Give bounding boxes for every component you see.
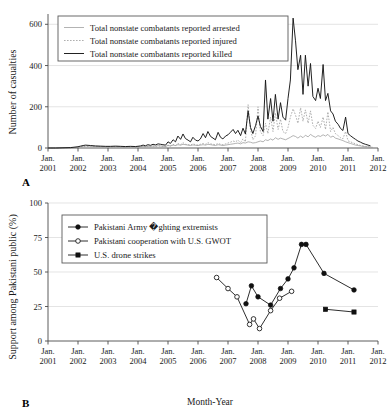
panel-a-y-axis-title: Number of casualties (7, 49, 18, 134)
x-tick-label-month: Jan. (371, 346, 384, 356)
x-tick-label-year: 2004 (130, 163, 148, 173)
x-tick-label-month: Jan. (371, 153, 384, 163)
series-marker (278, 286, 283, 291)
series-marker (249, 284, 254, 289)
x-tick-label-year: 2008 (250, 356, 267, 366)
y-tick-label: 50 (34, 267, 43, 277)
x-tick-label-month: Jan. (131, 346, 144, 356)
panel-a-label: A (22, 176, 30, 188)
series-marker (299, 242, 304, 247)
x-tick-label-year: 2002 (70, 163, 87, 173)
series-marker (352, 310, 356, 314)
series-marker (226, 286, 231, 291)
x-tick-label-year: 2002 (70, 356, 87, 366)
series-marker (323, 307, 327, 311)
x-tick-label-year: 2010 (310, 163, 327, 173)
x-tick-label-month: Jan. (191, 153, 204, 163)
panel-b-x-tick-labels: Jan.2001Jan.2002Jan.2003Jan.2004Jan.2005… (40, 346, 387, 366)
series-marker (247, 322, 252, 327)
x-tick-label-month: Jan. (281, 346, 294, 356)
y-tick-label: 400 (29, 61, 42, 71)
x-tick-label-month: Jan. (251, 346, 264, 356)
series-marker (292, 266, 297, 271)
panel-b-y-axis-title: Support among Pakistani public (%) (7, 214, 19, 360)
x-tick-label-month: Jan. (101, 346, 114, 356)
x-tick-label-month: Jan. (131, 153, 144, 163)
x-tick-label-year: 2007 (220, 163, 237, 173)
legend-entry-label: Total nonstate combatants reported injur… (90, 36, 238, 46)
panel-b-label: B (22, 397, 30, 409)
x-tick-label-year: 2005 (160, 163, 177, 173)
x-tick-label-month: Jan. (221, 153, 234, 163)
x-tick-label-year: 2003 (100, 163, 117, 173)
x-tick-label-month: Jan. (101, 153, 114, 163)
panel-b-legend: Pakistani Army �ghting extremistsPakista… (62, 215, 267, 263)
legend-entry-label: U.S. drone strikes (94, 250, 156, 260)
y-tick-label: 0 (38, 336, 42, 346)
x-tick-label-month: Jan. (251, 153, 264, 163)
x-tick-label-month: Jan. (221, 346, 234, 356)
x-tick-label-month: Jan. (311, 346, 324, 356)
series-marker (322, 271, 327, 276)
figure-container: 0200400600 Jan.2001Jan.2002Jan.2003Jan.2… (0, 0, 390, 416)
x-tick-label-month: Jan. (71, 346, 84, 356)
y-tick-label: 200 (29, 102, 42, 112)
panel-b: 0255075100 Jan.2001Jan.2002Jan.2003Jan.2… (0, 195, 390, 416)
series-marker (256, 295, 261, 300)
x-tick-label-month: Jan. (71, 153, 84, 163)
series-marker (277, 296, 282, 301)
panel-b-y-tick-labels: 0255075100 (29, 198, 42, 346)
panel-a: 0200400600 Jan.2001Jan.2002Jan.2003Jan.2… (0, 0, 390, 195)
x-tick-label-year: 2009 (280, 356, 297, 366)
y-tick-label: 75 (34, 233, 43, 243)
series-line (326, 309, 355, 312)
x-tick-label-year: 2008 (250, 163, 267, 173)
series-line (48, 105, 371, 148)
x-tick-label-year: 2001 (40, 356, 57, 366)
series-marker (268, 303, 273, 308)
legend-entry-label: Pakistani cooperation with U.S. GWOT (94, 236, 232, 246)
x-tick-label-month: Jan. (281, 153, 294, 163)
x-tick-label-year: 2003 (100, 356, 117, 366)
x-tick-label-year: 2001 (40, 163, 57, 173)
y-tick-label: 25 (34, 302, 43, 312)
x-tick-label-year: 2006 (190, 163, 207, 173)
legend-entry-label: Total nonstate combatants reported kille… (90, 49, 233, 59)
series-marker (289, 289, 294, 294)
series-marker (268, 308, 273, 313)
panel-b-svg: 0255075100 Jan.2001Jan.2002Jan.2003Jan.2… (0, 195, 390, 416)
x-tick-label-month: Jan. (161, 346, 174, 356)
x-tick-label-month: Jan. (341, 346, 354, 356)
x-tick-label-month: Jan. (341, 153, 354, 163)
series-marker (214, 275, 219, 280)
y-tick-label: 0 (38, 143, 42, 153)
legend-entry-label: Total nonstate combatants reported arres… (90, 23, 240, 33)
panel-a-legend: Total nonstate combatants reported arres… (58, 16, 288, 61)
series-marker (304, 242, 309, 247)
x-tick-label-month: Jan. (161, 153, 174, 163)
x-tick-label-year: 2005 (160, 356, 177, 366)
panel-a-x-tick-labels: Jan.2001Jan.2002Jan.2003Jan.2004Jan.2005… (40, 153, 387, 173)
y-tick-label: 600 (29, 19, 42, 29)
x-tick-label-year: 2007 (220, 356, 237, 366)
x-tick-label-year: 2006 (190, 356, 207, 366)
series-marker (235, 295, 240, 300)
series-marker (257, 326, 262, 331)
x-tick-label-year: 2012 (370, 163, 387, 173)
x-tick-label-year: 2011 (340, 356, 357, 366)
x-tick-label-year: 2004 (130, 356, 148, 366)
x-tick-label-year: 2009 (280, 163, 297, 173)
panel-a-y-tick-labels: 0200400600 (29, 19, 42, 153)
x-tick-label-month: Jan. (41, 346, 54, 356)
x-tick-label-year: 2010 (310, 356, 327, 366)
panel-b-x-axis-title: Month-Year (187, 397, 234, 407)
legend-entry-label: Pakistani Army �ghting extremists (94, 221, 218, 232)
x-tick-label-year: 2012 (370, 356, 387, 366)
x-tick-label-month: Jan. (191, 346, 204, 356)
x-tick-label-month: Jan. (311, 153, 324, 163)
series-marker (286, 277, 291, 282)
x-tick-label-month: Jan. (41, 153, 54, 163)
panel-a-svg: 0200400600 Jan.2001Jan.2002Jan.2003Jan.2… (0, 0, 390, 195)
x-tick-label-year: 2011 (340, 163, 357, 173)
series-marker (352, 288, 357, 293)
